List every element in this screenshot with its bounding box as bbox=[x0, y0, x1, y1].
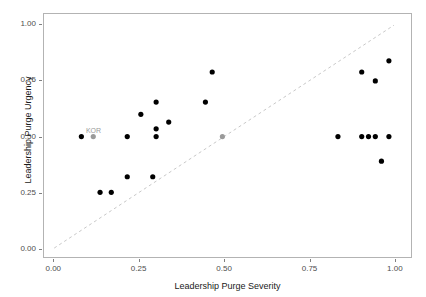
data-point bbox=[379, 159, 384, 164]
plot-drawing-layer bbox=[44, 14, 411, 257]
data-point bbox=[125, 174, 130, 179]
data-point bbox=[150, 174, 155, 179]
x-tick-label: 1.00 bbox=[387, 264, 403, 274]
data-point bbox=[335, 134, 340, 139]
x-tick-mark bbox=[139, 259, 140, 262]
y-axis-title: Leadership Purge Urgency bbox=[23, 50, 33, 210]
x-axis-title: Leadership Purge Severity bbox=[43, 281, 412, 291]
data-point bbox=[373, 134, 378, 139]
y-tick-label: 0.00 bbox=[5, 244, 36, 254]
data-point bbox=[359, 134, 364, 139]
x-tick-label: 0.75 bbox=[302, 264, 318, 274]
data-point bbox=[386, 134, 391, 139]
data-point bbox=[359, 69, 364, 74]
y-tick-mark bbox=[39, 137, 42, 138]
data-point bbox=[138, 112, 143, 117]
data-point bbox=[97, 190, 102, 195]
data-point bbox=[203, 99, 208, 104]
x-tick-mark bbox=[224, 259, 225, 262]
data-point bbox=[109, 190, 114, 195]
data-point bbox=[154, 99, 159, 104]
y-tick-mark bbox=[39, 80, 42, 81]
y-tick-mark bbox=[39, 24, 42, 25]
data-point bbox=[366, 134, 371, 139]
data-point bbox=[210, 69, 215, 74]
data-point-label: KOR bbox=[86, 127, 101, 134]
plot-panel: KOR bbox=[43, 13, 412, 258]
data-point bbox=[166, 120, 171, 125]
y-tick-mark bbox=[39, 249, 42, 250]
x-tick-label: 0.50 bbox=[216, 264, 232, 274]
y-tick-label: 1.00 bbox=[5, 19, 36, 29]
data-point bbox=[125, 134, 130, 139]
x-tick-label: 0.00 bbox=[45, 264, 61, 274]
data-point bbox=[386, 58, 391, 63]
scatter-plot-figure: KOR 0.000.250.500.751.00 0.000.250.500.7… bbox=[0, 0, 426, 297]
data-point bbox=[373, 78, 378, 83]
data-point bbox=[220, 134, 225, 139]
x-tick-mark bbox=[53, 259, 54, 262]
y-tick-mark bbox=[39, 193, 42, 194]
data-point bbox=[79, 134, 84, 139]
data-point bbox=[154, 134, 159, 139]
x-tick-label: 0.25 bbox=[131, 264, 147, 274]
data-point bbox=[91, 134, 96, 139]
data-point bbox=[154, 126, 159, 131]
x-tick-mark bbox=[310, 259, 311, 262]
x-tick-mark bbox=[395, 259, 396, 262]
